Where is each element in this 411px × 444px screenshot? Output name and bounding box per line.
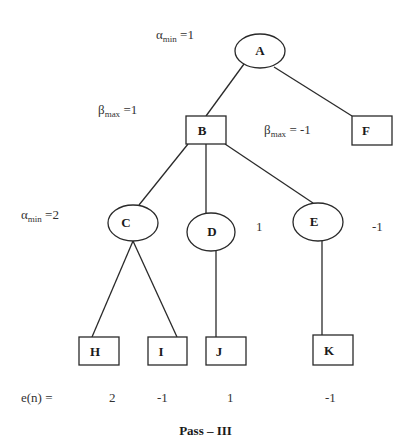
e-value-annotation: -1 (372, 219, 383, 235)
annotation-value: = -1 (286, 122, 311, 137)
edge-b-c (139, 144, 188, 205)
annotation-value: =1 (120, 102, 137, 117)
annotation-value: =1 (177, 27, 194, 42)
evaluation-j: 1 (227, 390, 234, 406)
edge-a-b (206, 64, 244, 116)
node-e-label: E (310, 214, 319, 229)
beta-max-f-annotation: βmax = -1 (264, 122, 311, 139)
beta-symbol: β (98, 102, 105, 117)
node-i-label: I (158, 344, 163, 359)
node-j (206, 337, 246, 365)
annotation-value: =2 (42, 207, 59, 222)
edge-c-h (92, 241, 133, 337)
node-f (352, 116, 392, 145)
evaluation-label: e(n) = (21, 390, 53, 406)
beta-symbol: β (264, 122, 271, 137)
alpha-symbol: α (21, 207, 28, 222)
game-tree: A B F C D E H I J K (0, 0, 411, 444)
annotation-sub: max (271, 129, 287, 139)
annotation-sub: min (28, 214, 42, 224)
node-d-label: D (207, 224, 216, 239)
node-b-label: B (198, 123, 207, 138)
alpha-min-c-annotation: αmin =2 (21, 207, 59, 224)
edge-b-e (225, 144, 313, 203)
node-f-label: F (362, 123, 370, 138)
annotation-sub: min (163, 34, 177, 44)
alpha-min-a-annotation: αmin =1 (156, 27, 194, 44)
node-i (148, 337, 187, 365)
evaluation-k: -1 (325, 390, 336, 406)
edge-a-f (274, 67, 352, 116)
evaluation-i: -1 (157, 390, 168, 406)
d-value-annotation: 1 (256, 219, 263, 235)
node-c (108, 205, 158, 241)
node-j-label: J (216, 344, 223, 359)
node-h-label: H (90, 344, 100, 359)
node-k-label: K (324, 343, 335, 358)
node-a-label: A (255, 43, 265, 58)
annotation-sub: max (105, 109, 121, 119)
edge-c-i (133, 241, 177, 337)
evaluation-h: 2 (109, 390, 116, 406)
diagram-caption: Pass – III (0, 423, 411, 439)
beta-max-b-annotation: βmax =1 (98, 102, 137, 119)
node-c-label: C (121, 215, 130, 230)
alpha-symbol: α (156, 27, 163, 42)
